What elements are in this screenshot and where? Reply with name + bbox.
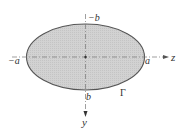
label-a: a bbox=[145, 56, 150, 66]
label-neg-a: −a bbox=[8, 56, 20, 66]
label-neg-b: −b bbox=[88, 13, 100, 23]
label-z-axis: z bbox=[171, 52, 175, 63]
label-b: b bbox=[86, 92, 91, 102]
label-gamma: Γ bbox=[120, 88, 126, 98]
label-y-axis: y bbox=[82, 117, 87, 128]
z-axis-arrowhead bbox=[163, 55, 169, 59]
origin-point bbox=[84, 56, 86, 58]
